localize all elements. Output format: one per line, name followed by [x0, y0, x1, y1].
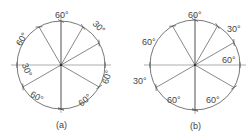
figure-b: 60°30°60°60°30°60°60°(b)	[133, 10, 246, 131]
angle-label: 30°	[133, 76, 147, 86]
figure-caption: (b)	[190, 121, 201, 131]
figure-caption: (a)	[56, 120, 67, 130]
center-point	[60, 64, 63, 67]
radius-line	[195, 65, 234, 88]
figure-a: 60°30°60°30°60°60°60°(a)	[11, 10, 114, 130]
radius-line	[195, 26, 218, 65]
radius-line	[61, 27, 83, 65]
angle-label: 30°	[20, 62, 34, 79]
angle-label: 60°	[55, 10, 69, 20]
angle-label: 60°	[76, 92, 93, 109]
radius-line	[61, 65, 99, 87]
angle-label: 60°	[222, 55, 236, 65]
angle-label: 60°	[188, 10, 202, 20]
radius-line	[39, 27, 61, 65]
angle-label: 60°	[167, 95, 181, 105]
diagram-canvas: 60°30°60°30°60°60°60°(a) 60°30°60°60°30°…	[0, 0, 251, 135]
angle-label: 60°	[206, 95, 220, 105]
angle-label: 60°	[142, 37, 156, 47]
angle-label: 30°	[227, 24, 241, 34]
radius-line	[173, 26, 196, 65]
angle-label: 60°	[100, 69, 113, 85]
angle-label: 60°	[14, 30, 30, 47]
radius-line	[156, 65, 195, 88]
radius-line	[61, 43, 99, 65]
center-point	[194, 64, 197, 67]
angle-label: 60°	[28, 89, 45, 105]
angle-label: 30°	[91, 19, 108, 36]
